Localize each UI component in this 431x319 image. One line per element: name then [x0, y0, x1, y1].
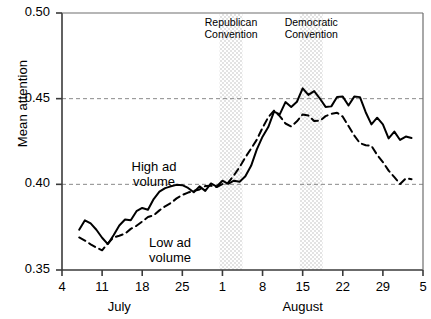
series-label-line-2: volume [124, 250, 216, 265]
annotation-line-2: Convention [188, 29, 274, 41]
convention-bands [220, 14, 323, 270]
x-tick-label: 11 [87, 279, 117, 294]
series-label-line-1: High ad [108, 159, 200, 174]
x-tick-label: 4 [47, 279, 77, 294]
series-label-line-1: Low ad [124, 235, 216, 250]
x-tick-label: 1 [207, 279, 237, 294]
month-label: July [84, 299, 154, 314]
y-tick-label: 0.50 [0, 4, 50, 19]
series-label-low-ad-volume: Low ad volume [124, 235, 216, 265]
x-tick-label: 22 [328, 279, 358, 294]
x-tick-label: 25 [167, 279, 197, 294]
annotation-line-2: Convention [268, 29, 354, 41]
x-tick-label: 18 [127, 279, 157, 294]
x-tick-label: 29 [368, 279, 398, 294]
annotation-democratic-convention: Democratic Convention [268, 17, 354, 40]
annotation-republican-convention: Republican Convention [188, 17, 274, 40]
series-label-line-2: volume [108, 174, 200, 189]
y-tick-label: 0.35 [0, 261, 50, 276]
y-tick-label: 0.40 [0, 175, 50, 190]
annotation-line-1: Democratic [268, 17, 354, 29]
series-label-high-ad-volume: High ad volume [108, 159, 200, 189]
annotation-line-1: Republican [188, 17, 274, 29]
x-tick-label: 8 [248, 279, 278, 294]
y-tick-label: 0.45 [0, 90, 50, 105]
x-tick-label: 15 [288, 279, 318, 294]
month-label: August [268, 299, 338, 314]
x-tick-label: 5 [408, 279, 431, 294]
